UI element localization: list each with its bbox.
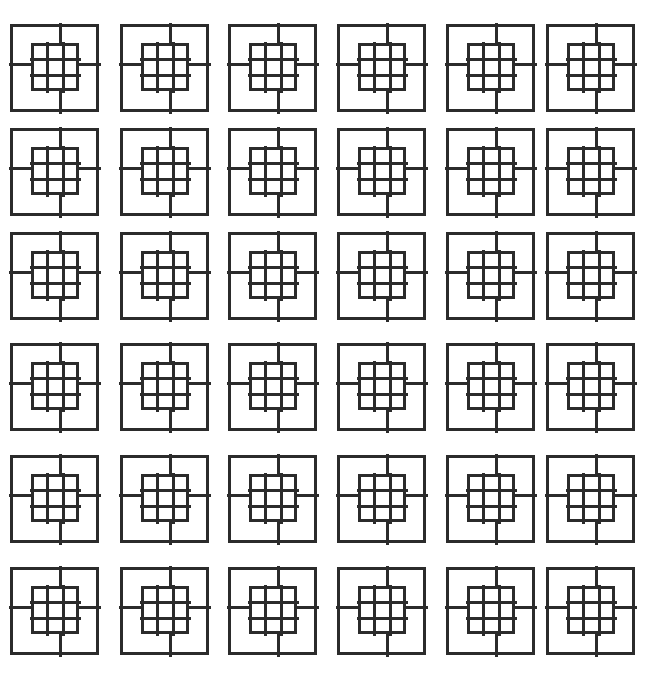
pattern-svg xyxy=(0,0,646,682)
pattern-canvas xyxy=(0,0,646,682)
